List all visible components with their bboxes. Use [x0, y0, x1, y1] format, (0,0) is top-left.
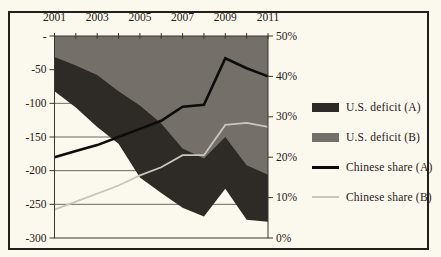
legend-item-us-deficit-a: U.S. deficit (A) [312, 92, 432, 122]
legend-label: Chinese share (A) [346, 161, 432, 173]
x-tick-label: 2005 [128, 11, 151, 23]
legend-label: Chinese share (B) [346, 191, 432, 203]
figure: 200120032005200720092011--50-100-150-200… [0, 0, 441, 257]
left-axis-tick-label: -250 [25, 198, 46, 210]
right-axis-tick-label: 0% [276, 232, 292, 244]
left-axis-tick-label: -50 [31, 63, 47, 75]
chinese-share-b-line-icon [312, 196, 339, 198]
x-tick-label: 2007 [171, 11, 194, 23]
legend-label: U.S. deficit (A) [346, 101, 421, 113]
x-tick-label: 2009 [214, 11, 237, 23]
x-tick-label: 2001 [43, 11, 66, 23]
x-tick-label: 2011 [257, 11, 280, 23]
right-axis-tick-label: 30% [276, 110, 298, 122]
legend: U.S. deficit (A) U.S. deficit (B) Chines… [312, 92, 432, 212]
right-axis-tick-label: 50% [276, 30, 298, 42]
left-axis-tick-label: -300 [25, 232, 46, 244]
legend-item-chinese-share-a: Chinese share (A) [312, 152, 432, 182]
right-axis-tick-label: 40% [276, 70, 298, 82]
legend-label: U.S. deficit (B) [346, 131, 420, 143]
right-axis-tick-label: 10% [276, 191, 298, 203]
legend-item-chinese-share-b: Chinese share (B) [312, 182, 432, 212]
right-axis-tick-label: 20% [276, 151, 298, 163]
left-axis-tick-label: -150 [25, 131, 46, 143]
left-axis-tick-label: -200 [25, 164, 46, 176]
us-deficit-a-swatch-icon [312, 103, 339, 112]
left-axis-tick-label: -100 [25, 97, 46, 109]
x-tick-label: 2003 [86, 11, 109, 23]
legend-item-us-deficit-b: U.S. deficit (B) [312, 122, 432, 152]
left-axis-tick-label: - [43, 30, 47, 42]
us-deficit-b-swatch-icon [312, 133, 339, 142]
chinese-share-a-line-icon [312, 166, 339, 169]
